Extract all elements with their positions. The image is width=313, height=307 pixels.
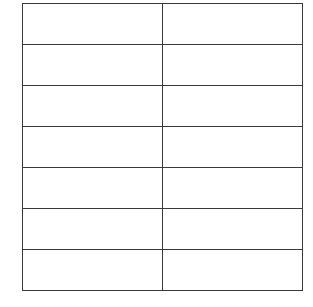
table-row — [23, 86, 303, 127]
table-cell — [163, 209, 303, 250]
table-row — [23, 4, 303, 45]
table-cell — [23, 4, 163, 45]
table-row — [23, 127, 303, 168]
table-cell — [23, 127, 163, 168]
table-row — [23, 168, 303, 209]
table-cell — [163, 127, 303, 168]
table-cell — [163, 168, 303, 209]
table-row — [23, 45, 303, 86]
table-cell — [163, 250, 303, 291]
table-cell — [23, 45, 163, 86]
table-cell — [23, 209, 163, 250]
empty-grid-table — [22, 3, 303, 291]
table-cell — [23, 86, 163, 127]
table-cell — [163, 86, 303, 127]
table-cell — [163, 4, 303, 45]
table-cell — [23, 250, 163, 291]
table-row — [23, 250, 303, 291]
table-cell — [163, 45, 303, 86]
table-cell — [23, 168, 163, 209]
table-row — [23, 209, 303, 250]
